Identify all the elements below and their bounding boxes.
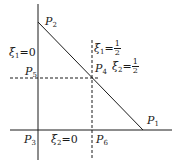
label-p1: P1 <box>147 115 159 128</box>
fraction-one-half: 12 <box>132 58 139 75</box>
diagonal-line-p2-p1 <box>38 22 143 130</box>
label-p4: P4 <box>95 63 107 76</box>
fraction-one-half: 12 <box>114 40 121 57</box>
label-p3: P3 <box>24 134 36 147</box>
label-p6: P6 <box>96 134 108 147</box>
label-p5: P5 <box>25 66 37 79</box>
label-xi2-half: ξ2=12 <box>112 58 139 75</box>
label-xi1-zero: ξ1=0 <box>9 47 36 60</box>
label-xi2-zero: ξ2=0 <box>51 134 78 147</box>
label-xi1-half: ξ1=12 <box>94 40 121 57</box>
label-p2: P2 <box>45 16 57 29</box>
